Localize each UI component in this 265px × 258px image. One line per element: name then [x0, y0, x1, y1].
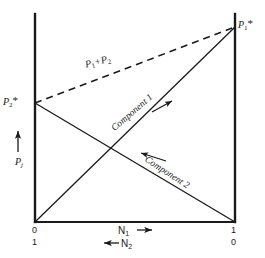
- p1-star-label: P1*: [238, 18, 253, 32]
- x-axis-n2-subscript: 2: [128, 243, 132, 250]
- p2-star-asterisk: *: [13, 94, 19, 106]
- tick-bottom-right-lower: 0: [231, 238, 236, 247]
- tick-bottom-left-lower: 1: [32, 238, 37, 247]
- total-pressure-dashed-line: [35, 27, 235, 103]
- tick-bottom-left-upper: 0: [32, 226, 37, 235]
- x-axis-n1-label: N1: [118, 226, 129, 237]
- tick-bottom-right-upper: 1: [231, 226, 236, 235]
- y-axis-label: Pj: [8, 157, 30, 169]
- x-axis-n1-subscript: 1: [125, 230, 129, 237]
- p1-star-asterisk: *: [248, 17, 254, 29]
- component-1-line: [35, 27, 235, 222]
- p2-star-label: P2*: [3, 95, 18, 109]
- component-1-pointer-arrow-icon: [152, 101, 172, 112]
- x-axis-n2-label: N2: [121, 239, 132, 250]
- y-axis-subscript: j: [21, 161, 23, 169]
- partial-pressure-diagram: P1* P2* P1+P2 Component 1 Component 2 Pj…: [0, 0, 265, 258]
- plot-canvas: [0, 0, 265, 258]
- component-2-line: [35, 103, 235, 222]
